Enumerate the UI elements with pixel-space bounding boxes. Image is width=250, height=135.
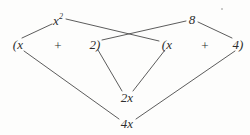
product-first: x2 bbox=[53, 14, 63, 27]
product-outer: 8 bbox=[189, 13, 196, 26]
product-last: 4x bbox=[121, 117, 133, 130]
product-inner: 2x bbox=[121, 91, 133, 104]
term-left-two: 2) bbox=[89, 38, 100, 51]
connector-inner-left bbox=[98, 50, 122, 91]
connector-inner-right bbox=[133, 50, 165, 91]
exponent: 2 bbox=[59, 12, 63, 21]
connector-last-right bbox=[136, 51, 235, 119]
term-right-four: 4) bbox=[232, 38, 243, 51]
term-right-plus: + bbox=[201, 39, 208, 52]
term-left-plus: + bbox=[54, 39, 61, 52]
term-left-open-x: (x bbox=[13, 38, 23, 51]
connector-first-left bbox=[22, 24, 52, 38]
term-right-open-x: (x bbox=[162, 38, 172, 51]
connector-outer-right bbox=[198, 22, 232, 38]
paper-speck bbox=[221, 8, 223, 10]
foil-diagram: (x+2)(x+4) x282x4x bbox=[0, 0, 250, 135]
